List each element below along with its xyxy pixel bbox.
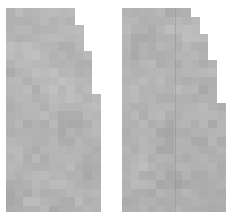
quarter-ellipse-right-canvas xyxy=(122,8,228,212)
image-stage xyxy=(0,0,238,224)
panel-right xyxy=(122,8,228,212)
panel-left xyxy=(6,8,104,212)
quarter-ellipse-left-canvas xyxy=(6,8,104,212)
